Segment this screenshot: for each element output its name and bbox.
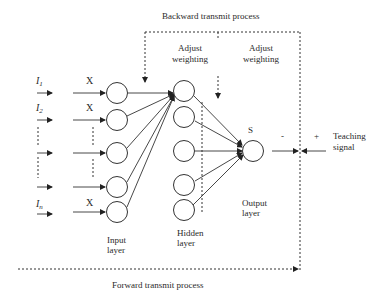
hidden-node-3: [174, 141, 195, 162]
hidden-node-4: [174, 175, 195, 196]
input-layer-label: Input: [107, 235, 126, 245]
hidden-layer-nodes: [174, 81, 195, 221]
input-signals: I1 I2 In X X X: [35, 75, 105, 214]
forward-process-label: Forward transmit process: [112, 280, 204, 290]
hidden-node-1: [174, 81, 195, 102]
input-i1-label: I1: [35, 75, 43, 88]
output-layer-label-b: layer: [242, 208, 260, 218]
adjust-weighting-label-2: Adjust: [249, 43, 274, 53]
input-node-5: [107, 202, 128, 223]
hidden-node-2: [174, 107, 195, 128]
input-node-4: [107, 177, 128, 198]
weight-x-label-1: X: [86, 75, 94, 86]
adjust-weighting-label-2b: weighting: [243, 54, 279, 64]
weight-x-label-2: X: [86, 102, 94, 113]
input-hidden-connections: [127, 93, 174, 207]
input-i2-label: I2: [35, 102, 43, 115]
hidden-layer-label: Hidden: [177, 228, 204, 238]
error-comparison: - + Teaching signal: [272, 131, 366, 152]
hidden-node-5: [174, 200, 195, 221]
teaching-signal-label-b: signal: [333, 142, 355, 152]
input-layer-nodes: [107, 83, 128, 223]
input-in-label: In: [35, 198, 43, 211]
teaching-signal-label: Teaching: [333, 131, 366, 141]
input-layer-label-b: layer: [107, 245, 125, 255]
output-layer-label: Output: [242, 198, 268, 208]
weight-x-label-n: X: [86, 197, 94, 208]
bp-network-diagram: Backward transmit process Adjust weighti…: [0, 0, 381, 298]
output-node: [243, 141, 264, 162]
input-node-3: [107, 143, 128, 164]
hidden-output-connections: [193, 96, 243, 212]
adjust-weighting-label-1b: weighting: [172, 54, 208, 64]
adjust-weighting-label-1: Adjust: [178, 43, 203, 53]
plus-sign: +: [314, 131, 319, 141]
hidden-layer-label-b: layer: [177, 238, 195, 248]
minus-sign: -: [281, 131, 284, 141]
input-node-1: [107, 83, 128, 104]
output-node-label: S: [248, 125, 253, 135]
backward-process-label: Backward transmit process: [162, 11, 260, 21]
input-node-2: [107, 110, 128, 131]
